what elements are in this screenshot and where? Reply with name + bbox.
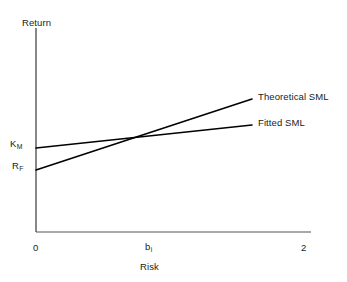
series-line-theoretical-sml [36, 99, 252, 170]
y-axis-title: Return [22, 18, 51, 28]
series-line-fitted-sml [36, 125, 252, 148]
x-tick-label-0: 0 [33, 243, 38, 253]
y-tick-km-subscript: M [16, 143, 22, 150]
y-tick-rf-base: R [12, 160, 19, 171]
y-tick-label-rf: RF [12, 161, 24, 171]
chart-canvas [0, 0, 347, 282]
x-axis-title: Risk [140, 262, 159, 272]
x-tick-label-bi: bi [145, 242, 152, 252]
series-label-fitted-sml: Fitted SML [258, 118, 305, 128]
series-label-theoretical-sml: Theoretical SML [258, 92, 329, 102]
y-tick-label-km: KM [10, 139, 23, 149]
y-tick-rf-subscript: F [19, 165, 24, 172]
x-tick-label-2: 2 [301, 243, 306, 253]
sml-chart: Return Risk 0 bi 2 KM RF Theoretical SML… [0, 0, 347, 282]
